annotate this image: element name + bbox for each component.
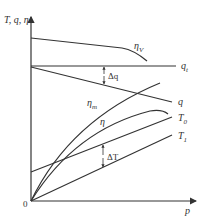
curve-eta-m bbox=[31, 83, 160, 201]
label-q-t: qt bbox=[181, 60, 189, 74]
label-t0: T0 bbox=[178, 112, 188, 126]
origin-label: 0 bbox=[23, 199, 28, 209]
label-delta-t: ΔT bbox=[107, 152, 119, 162]
curve-eta-v bbox=[31, 38, 147, 61]
label-delta-q: Δq bbox=[108, 71, 119, 81]
label-q: q bbox=[178, 96, 183, 107]
x-axis-label: p bbox=[184, 205, 190, 216]
label-eta: η bbox=[100, 116, 105, 127]
y-axis-label: T, q, η bbox=[4, 14, 29, 25]
diagram-canvas: T, q, η p 0 ηV qt q Δq ηm η T0 T1 ΔT bbox=[0, 0, 207, 223]
curve-q bbox=[31, 67, 172, 102]
label-eta-v: ηV bbox=[134, 40, 144, 54]
label-t1: T1 bbox=[178, 130, 187, 144]
label-eta-m: ηm bbox=[87, 97, 97, 111]
